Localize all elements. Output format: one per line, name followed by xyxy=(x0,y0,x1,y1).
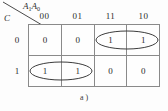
column-header-01: 01 xyxy=(61,10,94,22)
row-header-1: 1 xyxy=(8,56,26,88)
row-header-0: 0 xyxy=(8,24,26,56)
cell-r0-c01: 0 xyxy=(62,25,95,55)
row-variable-label: C xyxy=(4,13,10,23)
kmap-grid: 0 0 1 1 1 1 0 0 xyxy=(28,24,160,87)
cell-r1-c01: 1 xyxy=(62,56,95,86)
cell-r1-c11: 0 xyxy=(95,56,128,86)
cell-r0-c00: 0 xyxy=(29,25,62,55)
cell-r1-c00: 1 xyxy=(29,56,62,86)
cell-r0-c10: 1 xyxy=(127,25,159,55)
cell-r1-c10: 0 xyxy=(127,56,159,86)
column-header-11: 11 xyxy=(94,10,127,22)
karnaugh-map-figure: A1A0 C 00 01 11 10 0 1 0 0 1 1 1 1 0 0 a xyxy=(0,0,168,111)
table-row: 1 1 0 0 xyxy=(29,56,159,86)
table-row: 0 0 1 1 xyxy=(29,25,159,56)
row-header-column: 0 1 xyxy=(8,24,26,87)
column-header-row: 00 01 11 10 xyxy=(28,10,160,22)
column-header-10: 10 xyxy=(127,10,160,22)
column-header-00: 00 xyxy=(28,10,61,22)
cell-r0-c11: 1 xyxy=(95,25,128,55)
figure-caption: a ) xyxy=(0,93,168,102)
